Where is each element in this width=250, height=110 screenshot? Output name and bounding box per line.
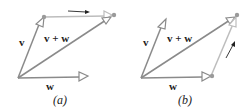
arrowhead-w-b bbox=[202, 72, 211, 81]
vector-sum-a bbox=[18, 20, 106, 78]
vector-v-a bbox=[18, 22, 40, 78]
caption-a: (a) bbox=[53, 93, 67, 108]
vector-v-b bbox=[141, 25, 162, 78]
label-w-b: w bbox=[169, 80, 177, 92]
label-w-a: w bbox=[46, 80, 54, 92]
label-v-a: v bbox=[19, 36, 25, 48]
panel-a bbox=[18, 10, 116, 81]
dot-sum-tip-b bbox=[235, 13, 239, 17]
panel-b bbox=[141, 13, 239, 81]
vector-w-translated-a bbox=[44, 16, 106, 17]
motion-arrow-b bbox=[226, 45, 233, 58]
dot-sum-tip-a bbox=[112, 13, 116, 17]
caption-b: (b) bbox=[178, 93, 192, 108]
dot-v-tip-a bbox=[42, 15, 46, 19]
motion-arrowhead-a bbox=[85, 10, 90, 14]
arrowhead-v-b bbox=[158, 19, 166, 29]
arrowhead-w-a bbox=[79, 72, 88, 81]
motion-arrowhead-b bbox=[231, 41, 235, 47]
dot-w-tip-b bbox=[210, 74, 214, 78]
arrowhead-sum-a bbox=[102, 17, 111, 24]
vector-w-a bbox=[18, 77, 80, 78]
label-v-b: v bbox=[143, 36, 149, 48]
vector-v-translated-b bbox=[211, 24, 233, 76]
vector-w-b bbox=[141, 77, 203, 78]
label-sum-b: v + w bbox=[167, 32, 192, 44]
vector-addition-diagram bbox=[0, 0, 250, 110]
vector-sum-b bbox=[141, 20, 230, 78]
motion-arrow-a bbox=[68, 11, 86, 12]
label-sum-a: v + w bbox=[44, 32, 69, 44]
